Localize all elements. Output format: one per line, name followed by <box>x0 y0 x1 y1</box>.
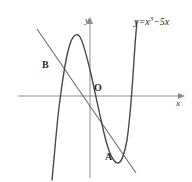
point-label-a: A <box>105 152 112 162</box>
point-label-b: B <box>42 60 49 70</box>
point-label-o: O <box>94 83 102 93</box>
equation-tail: −5x <box>153 16 169 27</box>
equation-label: y=x3−5x <box>134 16 169 27</box>
function-graph-figure: y=x3−5x y x B O A <box>0 0 192 182</box>
y-axis-label: y <box>85 16 89 25</box>
x-axis-label: x <box>176 99 180 108</box>
y-axis <box>87 17 93 178</box>
secant-line <box>37 29 136 173</box>
equation-base: y=x <box>134 16 150 27</box>
x-axis <box>18 93 185 99</box>
